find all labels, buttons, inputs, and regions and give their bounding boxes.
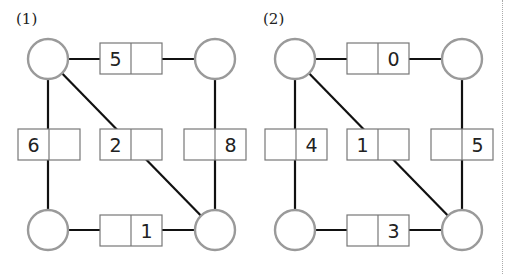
edge-weight-box[interactable]: 3 [347, 215, 409, 246]
edge-weight-box[interactable]: 5 [431, 129, 493, 160]
node-tl[interactable] [28, 39, 68, 79]
weight-right: 0 [387, 48, 399, 70]
node-br[interactable] [442, 210, 482, 250]
weight-right: 5 [471, 134, 483, 156]
edge-weight-box[interactable]: 1 [347, 129, 409, 160]
weight-left: 2 [109, 134, 121, 156]
node-tr[interactable] [442, 39, 482, 79]
weight-right: 8 [224, 134, 236, 156]
node-tl[interactable] [275, 39, 315, 79]
node-bl[interactable] [28, 210, 68, 250]
dotted-divider [502, 0, 503, 274]
diagram-2: (2)04153 [263, 10, 493, 250]
weight-left: 1 [356, 134, 368, 156]
edge-weight-box[interactable]: 5 [100, 43, 162, 74]
edge-weight-box[interactable]: 0 [347, 43, 409, 74]
edge-weight-box[interactable]: 2 [100, 129, 162, 160]
edge-weight-box[interactable]: 6 [18, 129, 80, 160]
weight-right: 3 [387, 220, 399, 242]
node-tr[interactable] [195, 39, 235, 79]
weight-left: 5 [109, 48, 121, 70]
edge-weight-box[interactable]: 8 [184, 129, 246, 160]
diagram-1: (1)56281 [16, 10, 246, 250]
edge-weight-box[interactable]: 4 [265, 129, 327, 160]
graph-diagrams: (1)56281(2)04153 [0, 0, 507, 274]
diagram-label: (1) [16, 10, 37, 28]
node-bl[interactable] [275, 210, 315, 250]
node-br[interactable] [195, 210, 235, 250]
weight-right: 4 [305, 134, 317, 156]
weight-left: 6 [27, 134, 39, 156]
weight-right: 1 [140, 220, 152, 242]
edge-weight-box[interactable]: 1 [100, 215, 162, 246]
diagram-label: (2) [263, 10, 284, 28]
